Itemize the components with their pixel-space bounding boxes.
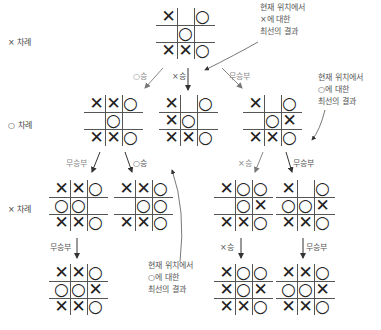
board-b: ✕○✕○✕✕○ [163, 95, 214, 146]
x-mark: ✕ [177, 42, 194, 59]
o-mark: ○ [197, 95, 214, 112]
x-mark: ✕ [280, 214, 297, 231]
note-line: 최선의 결과 [260, 26, 305, 38]
x-mark: ✕ [163, 129, 180, 146]
note-line: 현재 위치에서 [148, 260, 193, 272]
board-c: ✕○○✕✕✕○ [247, 95, 298, 146]
edge-label-root-a: ○승 [133, 70, 147, 81]
board-j: ✕✕○○○✕✕✕○ [280, 264, 331, 315]
x-mark: ✕ [297, 298, 314, 315]
x-mark: ✕ [218, 214, 235, 231]
x-mark: ✕ [235, 214, 252, 231]
turn-label-x: × 차례 [8, 36, 31, 47]
board-root: ✕○○✕✕○ [160, 8, 211, 59]
edge-label-c-g: 무승부 [293, 157, 314, 168]
edge-label-d-h: 무승부 [50, 241, 71, 252]
x-mark: ✕ [53, 298, 70, 315]
edge-label-f-i: ×승 [220, 241, 234, 252]
edge-label-g-j: 무승부 [306, 241, 327, 252]
note-line: ○에 대한 [318, 84, 363, 96]
o-mark: ○ [252, 214, 269, 231]
board-e: ✕✕○○○✕✕○ [118, 180, 169, 231]
o-mark: ○ [194, 42, 211, 59]
x-mark: ✕ [118, 214, 135, 231]
note-line: 최선의 결과 [148, 284, 193, 296]
edge-label-a-d: 무승부 [66, 157, 87, 168]
note-best-for-o-bottom: 현재 위치에서 ○에 대한 최선의 결과 [148, 260, 193, 296]
note-line: ×에 대한 [260, 14, 305, 26]
o-mark: ○ [252, 298, 269, 315]
x-mark: ✕ [247, 95, 264, 112]
turn-label-o: ○ 차례 [8, 119, 32, 130]
o-mark: ○ [314, 214, 331, 231]
edge-label-root-b: ×승 [172, 70, 186, 81]
o-mark: ○ [122, 129, 139, 146]
o-mark: ○ [314, 298, 331, 315]
board-a: ✕✕○○✕✕○ [88, 95, 139, 146]
x-mark: ✕ [53, 214, 70, 231]
x-mark: ✕ [235, 298, 252, 315]
x-mark: ✕ [247, 129, 264, 146]
note-line: 현재 위치에서 [260, 2, 305, 14]
x-mark: ✕ [280, 298, 297, 315]
o-mark: ○ [87, 180, 104, 197]
board-g: ✕○○○✕✕✕○ [280, 180, 331, 231]
o-mark: ○ [194, 8, 211, 25]
board-f: ✕○○○✕✕✕○ [218, 180, 269, 231]
board-h: ✕✕○○○✕✕✕○ [53, 264, 104, 315]
x-mark: ✕ [88, 95, 105, 112]
board-i: ✕○○✕○✕✕✕○ [218, 264, 269, 315]
x-mark: ✕ [70, 298, 87, 315]
note-best-for-x: 현재 위치에서 ×에 대한 최선의 결과 [260, 2, 305, 38]
x-mark: ✕ [160, 8, 177, 25]
note-best-for-o-right: 현재 위치에서 ○에 대한 최선의 결과 [318, 72, 363, 108]
o-mark: ○ [122, 95, 139, 112]
o-mark: ○ [197, 129, 214, 146]
x-mark: ✕ [297, 214, 314, 231]
x-mark: ✕ [70, 214, 87, 231]
x-mark: ✕ [105, 129, 122, 146]
x-mark: ✕ [88, 129, 105, 146]
note-line: 현재 위치에서 [318, 72, 363, 84]
board-d: ✕✕○○○✕✕○ [53, 180, 104, 231]
edge-label-c-f: ×승 [238, 157, 252, 168]
x-mark: ✕ [218, 298, 235, 315]
x-mark: ✕ [160, 42, 177, 59]
o-mark: ○ [281, 129, 298, 146]
turn-label-x-2: × 차례 [8, 203, 31, 214]
o-mark: ○ [87, 298, 104, 315]
x-mark: ✕ [135, 214, 152, 231]
x-mark: ✕ [218, 180, 235, 197]
x-mark: ✕ [118, 180, 135, 197]
note-line: ○에 대한 [148, 272, 193, 284]
edge-label-a-e: ○승 [133, 157, 147, 168]
edge-label-root-c: 무승부 [229, 70, 250, 81]
note-line: 최선의 결과 [318, 96, 363, 108]
x-mark: ✕ [264, 129, 281, 146]
o-mark: ○ [87, 214, 104, 231]
x-mark: ✕ [180, 129, 197, 146]
o-mark: ○ [152, 214, 169, 231]
